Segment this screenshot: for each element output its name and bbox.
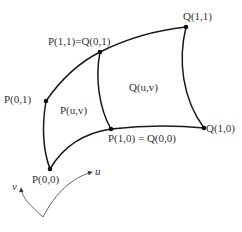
label-q10: Q(1,0)	[206, 122, 235, 135]
surface-patch-diagram: P(1,1)=Q(0,1) Q(1,1) P(0,1) P(0,0) P(1,0…	[0, 0, 242, 232]
label-v-axis: v	[12, 180, 17, 192]
point-p10-q00	[109, 127, 114, 132]
label-q11: Q(1,1)	[183, 10, 212, 23]
label-u-axis: u	[95, 165, 101, 177]
point-q11	[184, 25, 189, 30]
label-p11-q01: P(1,1)=Q(0,1)	[48, 35, 111, 48]
label-p00: P(0,0)	[32, 173, 60, 186]
label-patch-p: P(u,v)	[60, 104, 88, 117]
q-right-edge-curve	[182, 27, 204, 128]
p-top-edge-curve	[46, 52, 100, 101]
q-bottom-edge-curve	[111, 126, 204, 129]
label-patch-q: Q(u,v)	[129, 81, 158, 94]
shared-edge-curve	[98, 52, 111, 129]
p-bottom-edge-curve	[50, 129, 111, 169]
point-p00	[48, 167, 53, 172]
v-axis-arrow	[21, 188, 43, 217]
q-top-edge-curve	[100, 27, 186, 52]
point-p11-q01	[98, 50, 103, 55]
label-p10-q00: P(1,0) = Q(0,0)	[108, 132, 176, 145]
point-p01	[44, 99, 49, 104]
p-left-edge-curve	[44, 101, 50, 169]
label-p01: P(0,1)	[4, 93, 32, 106]
